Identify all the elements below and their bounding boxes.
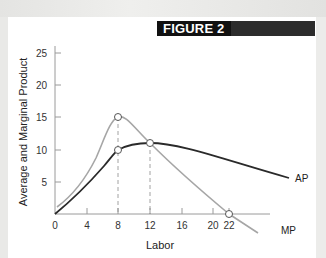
x-tick-label: 22 bbox=[223, 220, 235, 231]
mp-max-marker bbox=[115, 114, 122, 121]
x-tick-label: 8 bbox=[115, 220, 121, 231]
ap-l8-marker bbox=[115, 147, 122, 154]
ap-curve bbox=[55, 143, 289, 214]
x-tick-label: 20 bbox=[207, 220, 219, 231]
y-tick-label: 25 bbox=[36, 48, 48, 59]
y-tick-labels: 5 10 15 20 25 bbox=[36, 48, 48, 188]
x-tick-label: 16 bbox=[176, 220, 188, 231]
x-tick-labels: 0 4 8 12 16 20 22 bbox=[52, 220, 235, 231]
y-tick-label: 20 bbox=[36, 80, 48, 91]
y-axis-title: Average and Marginal Product bbox=[17, 58, 29, 206]
x-tick-label: 12 bbox=[144, 220, 156, 231]
ap-max-intersection-marker bbox=[147, 140, 154, 147]
mp-label: MP bbox=[281, 225, 296, 236]
y-tick-label: 5 bbox=[41, 177, 47, 188]
y-tick-label: 15 bbox=[36, 112, 48, 123]
x-axis-title: Labor bbox=[146, 239, 174, 251]
x-ticks bbox=[87, 208, 229, 214]
x-tick-label: 4 bbox=[84, 220, 90, 231]
ap-label: AP bbox=[295, 173, 309, 184]
x-tick-label: 0 bbox=[52, 220, 58, 231]
chart: 5 10 15 20 25 0 4 8 12 16 20 22 AP MP La… bbox=[0, 0, 326, 258]
y-tick-label: 10 bbox=[36, 145, 48, 156]
y-ticks bbox=[55, 53, 61, 182]
mp-zero-marker bbox=[226, 211, 233, 218]
